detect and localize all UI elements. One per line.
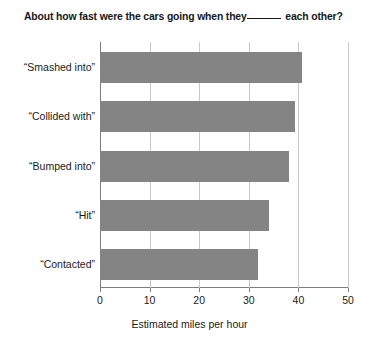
- bar-row: [100, 249, 348, 280]
- chart-title-prefix: About how fast were the cars going when …: [24, 11, 247, 22]
- bar: [100, 151, 289, 182]
- x-tick-label-50: 50: [342, 294, 354, 306]
- category-label: “Collided with”: [28, 101, 95, 132]
- bar: [100, 101, 295, 132]
- x-axis-line: [100, 287, 349, 288]
- bar-row: [100, 101, 348, 132]
- x-tick-label-10: 10: [144, 294, 156, 306]
- bar-row: [100, 52, 348, 83]
- gridline-50: [348, 42, 349, 288]
- x-tick-mark-30: [249, 288, 250, 292]
- category-label: “Contacted”: [40, 249, 95, 280]
- x-tick-mark-50: [348, 288, 349, 292]
- x-tick-label-20: 20: [193, 294, 205, 306]
- bar: [100, 52, 302, 83]
- category-label: “Smashed into”: [24, 52, 95, 83]
- chart-title-suffix: each other?: [285, 11, 342, 22]
- x-tick-label-40: 40: [293, 294, 305, 306]
- x-tick-mark-20: [199, 288, 200, 292]
- x-tick-mark-40: [298, 288, 299, 292]
- x-tick-label-0: 0: [97, 294, 103, 306]
- bar-row: [100, 151, 348, 182]
- bar: [100, 200, 269, 231]
- chart-title: About how fast were the cars going when …: [24, 11, 374, 22]
- category-label: “Hit”: [75, 200, 95, 231]
- bar-chart-figure: About how fast were the cars going when …: [0, 0, 379, 347]
- bar-row: [100, 200, 348, 231]
- plot-area: 01020304050: [100, 42, 348, 288]
- title-blank-underline: [247, 18, 281, 19]
- x-tick-mark-10: [150, 288, 151, 292]
- x-axis-title: Estimated miles per hour: [0, 318, 379, 330]
- bar: [100, 249, 258, 280]
- category-label: “Bumped into”: [29, 151, 95, 182]
- x-tick-label-30: 30: [243, 294, 255, 306]
- category-axis-labels: “Smashed into”“Collided with”“Bumped int…: [0, 42, 95, 288]
- x-tick-mark-0: [100, 288, 101, 292]
